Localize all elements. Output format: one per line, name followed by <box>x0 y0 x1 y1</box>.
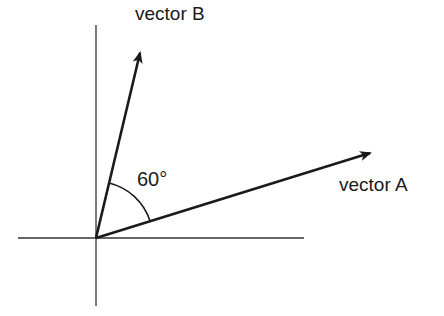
vector-a-label: vector A <box>339 175 408 194</box>
vector-b-arrow <box>96 53 140 238</box>
diagram-graphics <box>0 0 444 316</box>
vector-b-label: vector B <box>135 4 205 23</box>
vector-a-arrow <box>96 153 370 238</box>
angle-label: 60° <box>137 169 167 189</box>
vector-diagram: vector B vector A 60° <box>0 0 444 316</box>
